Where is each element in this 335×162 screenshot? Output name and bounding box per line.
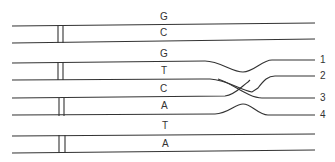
strand-number: 2 [320,71,326,81]
strand-line-3 [12,80,250,98]
bond-bar-3 [59,98,64,116]
base-label: A [161,101,168,111]
bond-bar-2 [58,62,63,80]
base-label: C [160,28,167,38]
bond-bar-1 [58,25,63,43]
strand-number: 4 [320,110,326,120]
base-label: A [162,139,169,149]
base-label: C [160,84,167,94]
strand-line-3b [218,79,315,98]
base-label: T [161,66,167,76]
bond-bar-4 [59,135,65,153]
strand-line-t-bottom [12,134,315,136]
strand-number: 1 [320,55,326,65]
strand-number: 3 [320,93,326,103]
base-label: G [160,49,168,59]
base-label: G [160,12,168,22]
strand-line-a-bottom [12,150,315,153]
base-label: T [162,121,168,131]
